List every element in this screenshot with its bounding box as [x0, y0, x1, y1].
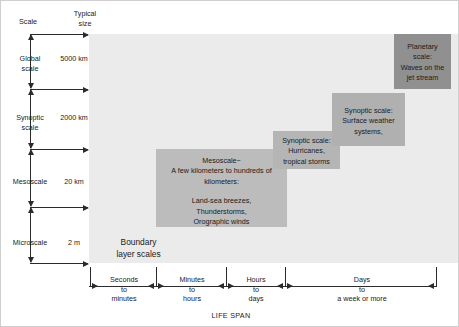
phenomena-box-synoptic-surface-weather: Synoptic scale: Surface weather systems,	[332, 93, 405, 146]
phenomena-box-synoptic-hurricanes: Synoptic scale: Hurricanes, tropical sto…	[273, 131, 340, 169]
lifespan-arrow-3-left	[287, 283, 293, 289]
scale-divider-arrow-bottom	[30, 263, 88, 264]
scale-divider-arrow-top	[30, 34, 88, 35]
lifespan-segment-label-0: Seconds to minutes	[93, 275, 155, 304]
scale-row-label-global: Global scale	[5, 54, 55, 73]
scale-divider-arrow-synoptic-meso	[30, 149, 88, 150]
scales-of-motion-diagram: Scale Typical size Global scale Synoptic…	[0, 0, 459, 327]
phenomena-box-synoptic-surface-weather-title: Synoptic scale: Surface weather systems,	[342, 106, 394, 137]
lifespan-arrow-3-right	[428, 283, 434, 289]
scale-row-label-microscale: Microscale	[5, 238, 55, 248]
scale-divider-arrow-meso-micro	[30, 207, 88, 208]
scale-row-label-mesoscale: Mesoscale	[5, 177, 55, 187]
phenomena-box-mesoscale: Mesoscale~ A few kilometers to hundreds …	[156, 149, 287, 227]
scale-span-arrow-microscale	[30, 208, 31, 262]
lifespan-tick-4	[436, 267, 437, 287]
scale-axis-header: Scale	[19, 17, 37, 27]
phenomena-box-mesoscale-items: Land-sea breezes, Thunderstorms, Orograp…	[192, 196, 252, 227]
lifespan-segment-label-3: Days to a week or more	[327, 275, 397, 304]
lifespan-segment-label-2: Hours to days	[225, 275, 287, 304]
lifespan-tick-1	[156, 267, 157, 287]
typical-size-synoptic: 2000 km	[53, 113, 95, 123]
typical-size-global: 5000 km	[53, 54, 95, 64]
typical-size-mesoscale: 20 km	[53, 177, 95, 187]
typical-size-header-line2: size	[55, 19, 115, 29]
typical-size-header-line1: Typical	[55, 9, 115, 19]
lifespan-axis-title: LIFE SPAN	[191, 311, 271, 321]
phenomena-box-synoptic-hurricanes-title: Synoptic scale: Hurricanes, tropical sto…	[282, 136, 330, 167]
boundary-layer-note: Boundary layer scales	[96, 237, 181, 261]
scale-row-label-synoptic: Synoptic scale	[5, 113, 55, 132]
lifespan-segment-label-1: Minutes to hours	[161, 275, 223, 304]
phenomena-box-planetary: Planetary scale: Waves on the jet stream	[394, 34, 451, 89]
scale-divider-arrow-global-synoptic	[30, 89, 88, 90]
typical-size-microscale: 2 m	[53, 238, 95, 248]
phenomena-box-planetary-title: Planetary scale: Waves on the jet stream	[401, 42, 445, 84]
lifespan-tick-0	[90, 267, 91, 287]
phenomena-box-mesoscale-title: Mesoscale~ A few kilometers to hundreds …	[171, 156, 271, 187]
